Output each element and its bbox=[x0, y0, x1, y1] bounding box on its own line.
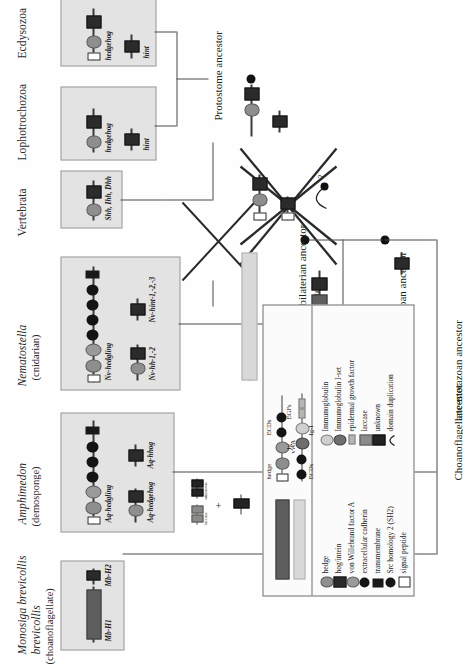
legend-symbol-hedge bbox=[320, 576, 333, 587]
aq-hhog-hog-domain bbox=[128, 449, 143, 461]
branch-vertebrata-down bbox=[166, 199, 212, 200]
legend-symbol-domain-duplication bbox=[384, 433, 396, 447]
cb-arch1-signal-peptide bbox=[253, 212, 266, 220]
legend-symbol-unknown bbox=[372, 434, 385, 445]
legend-schematic-signal bbox=[276, 473, 288, 481]
branch-vertebrata-to-bilaterian bbox=[212, 280, 213, 306]
aq-hedgling-ecd-1 bbox=[86, 471, 98, 482]
ecdy-hedgehog-signal-peptide bbox=[87, 52, 100, 60]
legend-label-sh2: Src homology 2 (SH2) bbox=[386, 506, 393, 573]
taxon-label-lophotrochozoa: Lophotrochozoa bbox=[16, 83, 28, 160]
taxon-label-amphimedon: Amphimedon bbox=[16, 462, 28, 524]
gene-label-aq-hhog: Aq-hhog bbox=[146, 441, 153, 468]
panel-nematostella bbox=[60, 256, 180, 390]
aq-hedgehog-hog-domain bbox=[128, 490, 143, 502]
branch-protostome-stem bbox=[176, 78, 208, 79]
aq-hedgling-transmembrane bbox=[85, 426, 99, 434]
branch-metazoan-stem bbox=[308, 239, 382, 240]
branch-ecdysozoa bbox=[154, 31, 176, 32]
legend-label-egf: epidermal growth factor bbox=[347, 360, 354, 431]
aq-hedgling-ecd-3 bbox=[86, 441, 98, 452]
nv-hedgling-ecd-2 bbox=[86, 314, 98, 325]
aq-hedgling-hedge-domain bbox=[85, 501, 101, 514]
aq-hedgling-ecd-2 bbox=[86, 456, 98, 467]
legend-schematic-ig bbox=[295, 437, 309, 449]
question-arc bbox=[306, 184, 330, 210]
panel-vertebrata bbox=[60, 170, 122, 228]
legend-schematic-ecd-1 bbox=[276, 427, 286, 437]
lopho-hedgehog-hog-domain bbox=[86, 115, 101, 128]
legend-schematic-label-ecds-top: ECDs bbox=[265, 419, 272, 435]
gene-label-lopho-hedgehog: hedgehog bbox=[104, 122, 111, 152]
aq-hedgling-signal-peptide bbox=[87, 516, 100, 524]
legend-label-signal-peptide: signal peptide bbox=[399, 532, 406, 573]
protostome-arch-hedge bbox=[244, 103, 259, 116]
mb-h1-hog-domain bbox=[86, 589, 101, 639]
legend-schematic-hedge bbox=[275, 457, 289, 469]
legend-schematic-bar-dark bbox=[275, 499, 289, 579]
legend-schematic-label-egfs: EGFs bbox=[285, 404, 292, 419]
legend-label-hog-intein: hog/intein bbox=[334, 543, 341, 573]
branch-choano-metazoan-base bbox=[436, 239, 437, 554]
unknown-glyph-2 bbox=[191, 479, 203, 487]
metazoan-arch-hog bbox=[311, 277, 327, 290]
nv-hedgling-ecd-1 bbox=[86, 329, 98, 340]
legend-label-transmembrane: transmembrane bbox=[373, 527, 380, 573]
gene-label-shh: Shh, Ihh, Dhh bbox=[104, 176, 111, 220]
gene-label-aq-hedgehog: Aq-hedgehog bbox=[146, 481, 153, 522]
legend-label-vwa: von Willebrand factor A bbox=[347, 501, 354, 573]
nv-hedgling-hedge-domain bbox=[85, 359, 101, 372]
nv-hedgling-signal-peptide bbox=[87, 374, 100, 382]
legend-label-domain-duplication: domain duplication bbox=[386, 374, 393, 431]
legend-schematic-label-ig: Ig bbox=[285, 444, 292, 450]
gene-label-lopho-hint: hint bbox=[142, 138, 149, 150]
legend-divider bbox=[311, 305, 312, 595]
legend-schematic-ecd-4 bbox=[296, 454, 306, 464]
legend-schematic-label-hedge: hedge bbox=[265, 463, 272, 479]
legend-symbol-sh2 bbox=[385, 577, 395, 587]
metazoan-hedgling-architecture bbox=[241, 252, 257, 380]
shh-hedge-domain bbox=[86, 203, 101, 216]
nv-hh-hog-domain bbox=[130, 347, 145, 359]
annotation-laccase: laccase bbox=[203, 512, 208, 525]
legend-schematic-bar-light bbox=[293, 499, 305, 579]
lopho-hint-hog-domain bbox=[124, 133, 139, 145]
taxon-label-monosiga-species: brevicollis bbox=[30, 605, 42, 654]
aq-hedgling-vwa-domain bbox=[85, 485, 101, 498]
gene-label-nv-hedgling: Nv-hedgling bbox=[104, 342, 111, 380]
legend-schematic-ecd-3 bbox=[296, 469, 306, 479]
gene-label-nv-hint: Nv-hint-1,-2,-3 bbox=[148, 276, 155, 322]
plus-result-glyph bbox=[233, 498, 249, 508]
legend-label-immunoglobulin: Immunoglobulin bbox=[321, 381, 328, 431]
legend-symbol-egf bbox=[348, 434, 355, 444]
taxon-label-nematostella: Nematostella bbox=[16, 324, 28, 386]
cb-arch1-hog bbox=[252, 177, 267, 190]
gene-label-nv-hh: Nv-hh-1,-2 bbox=[148, 347, 155, 380]
branch-vertebrata bbox=[120, 199, 166, 200]
legend-label-hedge: hedge bbox=[321, 555, 328, 573]
legend-symbol-ecd bbox=[359, 577, 369, 587]
branch-lophotrochozoa bbox=[154, 125, 176, 126]
ecdy-hedgehog-hog-domain bbox=[86, 15, 101, 28]
taxon-sub-nematostella: (cnidarian) bbox=[30, 334, 41, 380]
node-label-protostome: Protostome ancestor bbox=[212, 30, 223, 120]
legend-container: hedge hog/intein von Willebrand factor A… bbox=[262, 304, 414, 596]
nv-hint-hog-domain bbox=[130, 303, 145, 315]
mb-h2-hog-domain bbox=[86, 570, 100, 580]
legend-schematic-label-ecds-bottom: ECDs bbox=[307, 463, 314, 479]
bilaterian-vert-crossbar bbox=[212, 142, 213, 200]
protostome-arch2-hog bbox=[272, 115, 287, 127]
legend-symbol-transmembrane bbox=[372, 578, 383, 587]
legend-label-laccase: laccase bbox=[360, 410, 367, 431]
choano-arch-hog bbox=[394, 257, 409, 269]
shh-hog-domain bbox=[86, 185, 101, 198]
cb-arch1-hedge bbox=[252, 193, 267, 206]
lopho-hedgehog-hedge-domain bbox=[86, 135, 101, 148]
legend-symbol-hog-intein bbox=[333, 576, 346, 587]
annotation-unknown: unknown bbox=[203, 482, 208, 499]
ecdy-hint-hog-domain bbox=[124, 40, 139, 52]
legend-symbol-immunoglobulin bbox=[320, 434, 333, 445]
legend-schematic-egf-2 bbox=[298, 398, 305, 408]
